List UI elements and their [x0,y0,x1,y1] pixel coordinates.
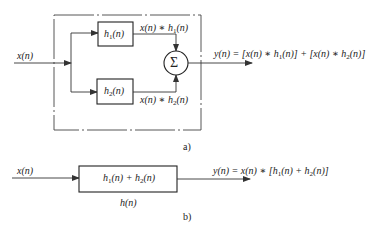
out-a-p2: (n)] + [x(n) ∗ h [282,48,346,59]
output-label-b: y(n) = x(n) ∗ [h1(n) + h2(n)] [213,166,329,178]
branch1-post: (n) [176,22,188,33]
block-b-p2: (n) + h [112,172,140,183]
h2-to-sum-line [133,75,176,92]
h2-block-label: h2(n) [104,86,124,98]
out-b-p3: (n)] [313,165,329,176]
combined-block-label: h1(n) + h2(n) [103,173,155,185]
branch2-post: (n) [176,94,188,105]
h1-block-label: h1(n) [104,29,124,41]
branch1-label: x(n) ∗ h1(n) [140,23,188,35]
caption-b: b) [183,212,191,222]
out-b-p1: y(n) = x(n) ∗ [h [213,165,278,176]
h1-arg: (n) [113,28,125,39]
branch2-label: x(n) ∗ h2(n) [140,95,188,107]
block-name-label: h(n) [120,198,137,208]
branch2-pre: x(n) ∗ h [140,94,173,105]
output-label-a: y(n) = [x(n) ∗ h1(n)] + [x(n) ∗ h2(n)] [214,49,365,61]
out-a-p1: y(n) = [x(n) ∗ h [214,48,279,59]
input-label-a: x(n) [17,51,33,61]
block-b-p3: (n) [143,172,155,183]
caption-a: a) [183,142,191,152]
h1-to-sum-line [133,34,176,51]
out-b-p2: (n) + h [281,165,309,176]
h2-arg: (n) [113,85,125,96]
input-label-b: x(n) [17,166,33,176]
out-a-p3: (n)] [350,48,366,59]
summer-sigma-icon: Σ [170,56,178,70]
branch1-pre: x(n) ∗ h [140,22,173,33]
